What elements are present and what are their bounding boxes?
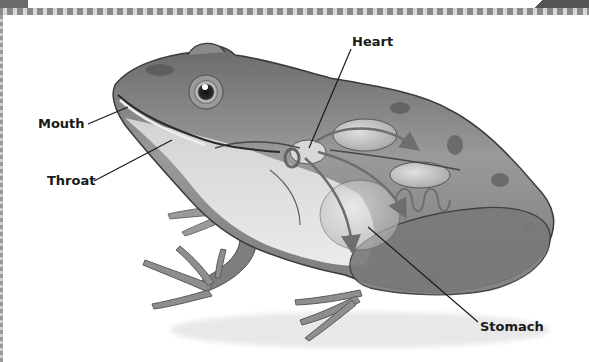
label-stomach: Stomach: [480, 320, 544, 333]
frog-eye: [189, 75, 223, 109]
lung: [333, 119, 397, 151]
label-throat: Throat: [47, 174, 95, 187]
label-heart: Heart: [352, 35, 393, 48]
label-mouth: Mouth: [38, 117, 85, 130]
